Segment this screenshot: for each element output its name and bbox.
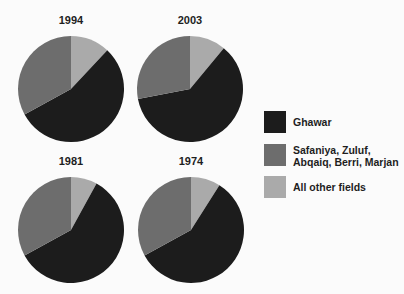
pie-graphic [11, 34, 131, 146]
pie-title: 2003 [130, 14, 250, 26]
pie-graphic [130, 34, 250, 146]
pie-graphic [131, 175, 251, 287]
pie-title: 1981 [11, 155, 131, 167]
legend-label: All other fields [293, 181, 404, 193]
legend-swatch [264, 144, 286, 166]
legend-swatch [264, 176, 286, 198]
legend-label: Ghawar [293, 116, 404, 128]
legend-label: Safaniya, Zuluf, Abqaiq, Berri, Marjan [293, 144, 404, 168]
pie-title: 1994 [11, 14, 131, 26]
pie-title: 1974 [131, 155, 251, 167]
pie-graphic [11, 175, 131, 287]
pie-slice-safaniya-group [137, 36, 190, 99]
legend-swatch [264, 111, 286, 133]
